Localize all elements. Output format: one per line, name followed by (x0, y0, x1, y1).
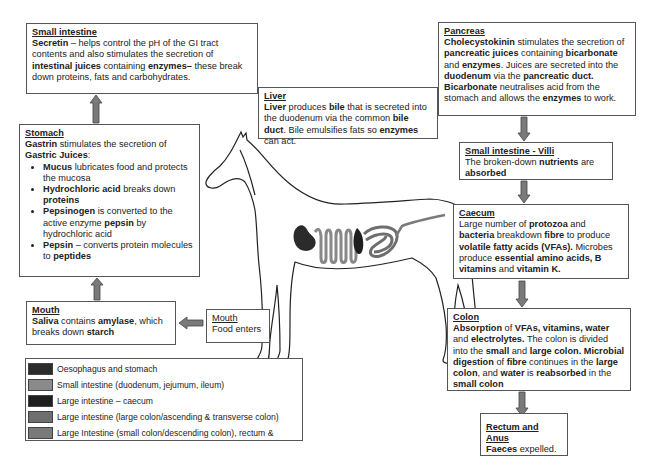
legend-label: Small intestine (duodenum, jejumum, ileu… (57, 380, 224, 390)
legend-swatch (28, 395, 53, 407)
legend-label: Oesophagus and stomach (57, 364, 157, 374)
rectum-box: Rectum and Anus Faeces expelled. (480, 413, 568, 456)
bullet-item: Hydrochloric acid breaks down proteins (43, 184, 194, 206)
liver-title: Liver (264, 91, 432, 102)
stomach-organ (294, 226, 315, 251)
pancreas-title: Pancreas (444, 26, 630, 37)
legend: Oesophagus and stomach Small intestine (… (25, 358, 303, 441)
small-colon-organ (396, 215, 445, 236)
arrow-up-icon (89, 94, 103, 124)
legend-item: Large Intestine (small colon/descending … (28, 425, 300, 441)
villi-text: The broken-down nutrients are absorbed (465, 157, 607, 179)
pancreas-box: Pancreas Cholecystokinin stimulates the … (438, 22, 636, 116)
small-intestine-text: Secretin – helps control the pH of the G… (32, 38, 252, 83)
bullet-item: Mucus lubricates food and protects the m… (43, 162, 194, 184)
rectum-text: Faeces expelled. (486, 444, 562, 455)
mouth-food-text: Food enters (212, 324, 264, 335)
stomach-box: Stomach Gastrin stimulates the secretion… (19, 124, 200, 277)
legend-label: Large intestine (large colon/ascending &… (57, 412, 279, 422)
legend-label: Large Intestine (small colon/descending … (57, 428, 273, 438)
small-intestine-organ (315, 229, 356, 262)
caecum-title: Caecum (459, 208, 623, 219)
rectum-title: Rectum and Anus (486, 422, 562, 444)
legend-swatch (28, 379, 53, 391)
arrow-down-icon (517, 180, 531, 204)
pancreas-text: Cholecystokinin stimulates the secretion… (444, 37, 630, 104)
mouth-box: Mouth Saliva contains amylase, which bre… (26, 301, 176, 345)
bullet-item: Pepsin – converts protein molecules to p… (43, 240, 194, 262)
mouth-title: Mouth (32, 305, 170, 316)
stomach-intro: Gastrin stimulates the secretion of Gast… (25, 139, 194, 161)
colon-text: Absorption of VFAs, vitamins, water and … (453, 323, 625, 390)
small-intestine-box: Small intestine Secretin – helps control… (26, 23, 258, 94)
legend-swatch (28, 427, 53, 439)
liver-box: Liver Liver produces bile that is secret… (258, 87, 438, 139)
liver-text: Liver produces bile that is secreted int… (264, 102, 432, 147)
colon-box: Colon Absorption of VFAs, vitamins, wate… (447, 308, 631, 391)
small-intestine-title: Small intestine (32, 27, 252, 38)
stomach-title: Stomach (25, 128, 194, 139)
caecum-box: Caecum Large number of protozoa and bact… (453, 204, 629, 279)
arrow-down-icon (517, 116, 531, 142)
legend-item: Large intestine – caecum (28, 393, 300, 409)
mouth-food-title: Mouth (212, 313, 264, 324)
legend-item: Large intestine (large colon/ascending &… (28, 409, 300, 425)
stomach-bullets: Mucus lubricates food and protects the m… (25, 162, 194, 263)
arrow-up-icon (90, 277, 104, 301)
villi-title: Small intestine - Villi (465, 146, 607, 157)
mouth-text: Saliva contains amylase, which breaks do… (32, 316, 170, 338)
arrow-left-icon (178, 316, 204, 330)
caecum-text: Large number of protozoa and bacteria br… (459, 219, 623, 275)
large-colon-organ (364, 227, 397, 257)
bullet-item: Pepsinogen is converted to the active en… (43, 206, 194, 240)
colon-title: Colon (453, 312, 625, 323)
legend-swatch (28, 411, 53, 423)
arrow-down-icon (515, 280, 529, 308)
legend-swatch (28, 363, 53, 375)
mouth-food-box: Mouth Food enters (206, 309, 270, 343)
legend-label: Large intestine – caecum (57, 396, 153, 406)
villi-box: Small intestine - Villi The broken-down … (459, 142, 613, 180)
legend-item: Small intestine (duodenum, jejumum, ileu… (28, 377, 300, 393)
legend-item: Oesophagus and stomach (28, 361, 300, 377)
